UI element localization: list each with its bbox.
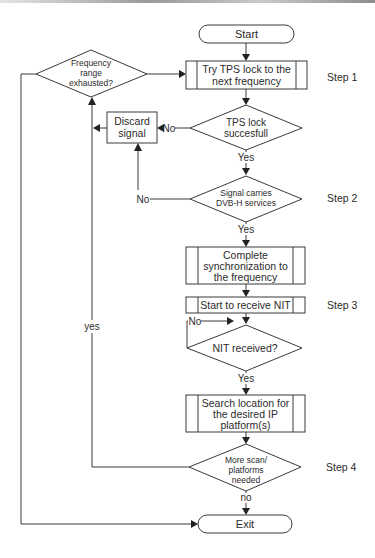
edge-label-nit-yes: Yes <box>238 373 254 384</box>
sync-line3: the frequency <box>214 271 278 283</box>
freq-line3: exhausted? <box>69 78 113 88</box>
dvbh-line2: DVB-H services <box>216 198 276 208</box>
search-line3: platform(s) <box>220 419 270 431</box>
edge-label-tps-no: No <box>163 123 176 134</box>
arrow-down-icon <box>242 508 250 515</box>
step-label-2: Step 2 <box>327 192 358 204</box>
dvbh-line1: Signal carries <box>220 188 272 198</box>
edge-label-more-yes: yes <box>84 321 100 332</box>
tps-line1: TPS lock <box>226 117 267 128</box>
arrow-down-icon <box>242 240 250 247</box>
nit-received-label: NIT received? <box>212 342 277 354</box>
arrow-down-icon <box>242 317 250 324</box>
tps-line2: succesfull <box>224 128 268 139</box>
step-label-3: Step 3 <box>327 299 358 311</box>
arrow-up-icon <box>88 97 96 105</box>
discard-line2: signal <box>118 127 145 139</box>
freq-line1: Frequency <box>71 58 112 68</box>
exit-label: Exit <box>236 518 254 530</box>
arrow-down-icon <box>242 54 250 61</box>
arrow-right-icon <box>179 70 186 78</box>
arrow-right-icon <box>227 317 234 325</box>
freq-line2: range <box>80 68 102 78</box>
arrow-up-icon <box>134 143 142 151</box>
edge-label-dvbh-no: No <box>137 194 150 205</box>
arrow-right-icon <box>191 520 198 528</box>
edge-more-yes <box>92 333 189 467</box>
more-line3: needed <box>232 475 261 485</box>
discard-line1: Discard <box>114 115 150 127</box>
flowchart: Start Try TPS lock to the next frequency… <box>0 0 375 558</box>
step-label-1: Step 1 <box>327 71 358 83</box>
arrow-down-icon <box>242 388 250 395</box>
arrow-down-icon <box>242 437 250 444</box>
arrow-down-icon <box>242 168 250 175</box>
edge-label-dvbh-yes: Yes <box>238 224 254 235</box>
arrow-down-icon <box>242 98 250 105</box>
edge-label-nit-no: No <box>189 316 202 327</box>
start-label: Start <box>235 28 258 40</box>
arrow-left-icon <box>93 124 100 132</box>
arrow-down-icon <box>242 290 250 297</box>
try-tps-line2: next frequency <box>212 75 282 87</box>
start-nit-label: Start to receive NIT <box>200 299 291 311</box>
edge-label-tps-yes: Yes <box>238 152 254 163</box>
edge-label-more-no: no <box>240 492 252 503</box>
try-tps-line1: Try TPS lock to the <box>202 63 291 75</box>
step-label-4: Step 4 <box>326 461 357 473</box>
edge-freq-exit <box>21 74 191 524</box>
more-line1: More scan/ <box>225 455 268 465</box>
more-line2: platforms <box>229 465 264 475</box>
